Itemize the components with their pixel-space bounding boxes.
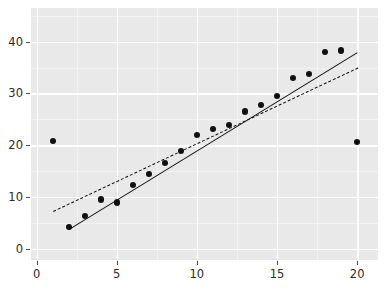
- data-point: [258, 102, 264, 108]
- y-axis-tick-mark: [26, 197, 30, 198]
- data-point: [226, 122, 232, 128]
- gridline-major-horizontal: [31, 42, 378, 43]
- data-point: [162, 160, 168, 166]
- x-axis-tick-label: 5: [113, 268, 120, 280]
- y-axis-tick-label: 0: [16, 243, 23, 255]
- gridline-major-vertical: [37, 8, 38, 260]
- x-axis-tick-label: 0: [33, 268, 40, 280]
- x-axis-tick-mark: [37, 261, 38, 265]
- gridline-minor-horizontal: [31, 119, 378, 120]
- y-axis-tick-mark: [26, 249, 30, 250]
- data-point: [98, 196, 104, 202]
- solid-fit-line: [69, 52, 358, 230]
- data-point: [146, 171, 152, 177]
- gridline-major-vertical: [117, 8, 118, 260]
- data-point: [178, 148, 184, 154]
- data-point: [242, 108, 248, 114]
- data-point: [290, 75, 296, 81]
- gridline-minor-horizontal: [31, 68, 378, 69]
- x-axis-tick-mark: [357, 261, 358, 265]
- data-point: [210, 126, 216, 132]
- gridline-major-vertical: [357, 8, 358, 260]
- x-axis-tick-label: 15: [270, 268, 285, 280]
- gridline-minor-horizontal: [31, 171, 378, 172]
- x-axis-tick-mark: [277, 261, 278, 265]
- data-point: [130, 182, 136, 188]
- x-axis-tick-label: 20: [350, 268, 365, 280]
- data-point: [194, 132, 200, 138]
- y-axis-tick-label: 10: [8, 191, 23, 203]
- data-point: [306, 71, 312, 77]
- y-axis-tick-label: 30: [8, 87, 23, 99]
- data-point: [322, 49, 328, 55]
- chart-figure: 05101520010203040: [0, 0, 384, 300]
- gridline-major-horizontal: [31, 249, 378, 250]
- y-axis-tick-mark: [26, 93, 30, 94]
- data-point-outlier: [50, 138, 56, 144]
- data-point: [114, 199, 120, 205]
- plot-panel: [31, 8, 378, 260]
- x-axis-tick-mark: [197, 261, 198, 265]
- data-point: [82, 213, 88, 219]
- data-point: [338, 47, 344, 53]
- x-axis-tick-mark: [117, 261, 118, 265]
- gridline-minor-horizontal: [31, 223, 378, 224]
- gridline-major-horizontal: [31, 93, 378, 94]
- gridline-minor-horizontal: [31, 16, 378, 17]
- y-axis-tick-mark: [26, 42, 30, 43]
- dashed-fit-line: [53, 67, 358, 211]
- data-point: [274, 93, 280, 99]
- y-axis-tick-label: 20: [8, 139, 23, 151]
- x-axis-tick-label: 10: [190, 268, 205, 280]
- y-axis-tick-mark: [26, 145, 30, 146]
- data-point: [66, 224, 72, 230]
- gridline-major-vertical: [277, 8, 278, 260]
- y-axis-tick-label: 40: [8, 36, 23, 48]
